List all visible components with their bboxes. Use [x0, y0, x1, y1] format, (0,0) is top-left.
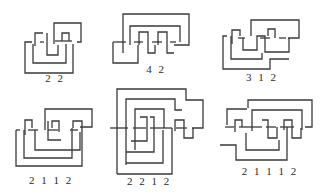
knot-label-312: 3 1 2 — [246, 71, 278, 83]
knot-strand — [232, 30, 240, 44]
knot-label-2112: 2 1 1 2 — [29, 174, 73, 186]
knot-strand — [117, 89, 203, 174]
knot-strand — [117, 128, 172, 174]
knot-label-21112: 2 1 1 1 2 — [242, 165, 299, 177]
knot-2112 — [16, 109, 92, 166]
knot-strand — [268, 29, 275, 38]
knot-42 — [113, 14, 189, 63]
knot-strand — [113, 42, 138, 63]
knot-strand — [47, 33, 58, 55]
knot-strand — [123, 14, 189, 53]
knot-2212 — [110, 89, 203, 174]
knot-label-2212: 2 2 1 2 — [127, 175, 171, 187]
knot-strand — [235, 120, 242, 132]
knot-strand — [33, 44, 66, 63]
knot-strand — [246, 133, 279, 150]
knot-strand — [262, 120, 277, 138]
knot-strand — [126, 117, 154, 152]
knot-21112 — [220, 100, 312, 160]
knot-strand — [131, 117, 147, 141]
knot-strand — [227, 109, 247, 125]
knot-strand — [135, 109, 164, 150]
knot-strand — [25, 120, 32, 135]
knot-strand — [62, 33, 69, 41]
knot-312 — [223, 20, 299, 69]
knot-strand — [175, 120, 193, 138]
knot-strand — [126, 130, 163, 163]
knot-label-42: 4 2 — [146, 63, 166, 75]
knot-22 — [25, 23, 81, 73]
knot-strand — [35, 33, 43, 46]
knot-label-22: 2 2 — [45, 72, 65, 84]
